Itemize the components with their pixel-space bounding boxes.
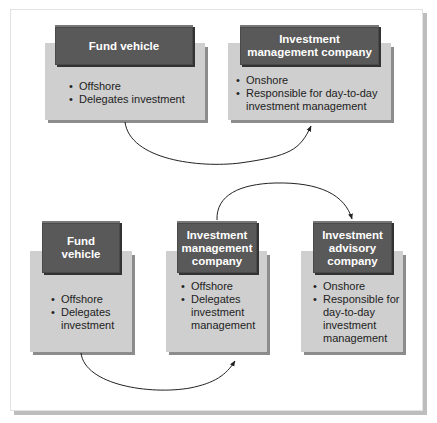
arrow-management-to-advisory xyxy=(217,183,352,220)
arrow-bottom-fund-to-management xyxy=(81,353,235,390)
arrow-top-fund-to-management xyxy=(125,122,311,164)
arrows-layer xyxy=(0,0,437,423)
